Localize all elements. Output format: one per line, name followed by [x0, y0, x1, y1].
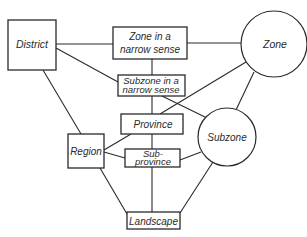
- district-label: District: [16, 38, 49, 50]
- edge-province-region: [104, 134, 131, 150]
- edge-region-landscape: [100, 168, 127, 214]
- edge-district-subzone-narrow: [56, 48, 118, 82]
- edge-district-region: [43, 70, 81, 134]
- hierarchy-diagram: District Zone in a narrow sense Zone Sub…: [0, 0, 307, 237]
- edge-subzone-landscape: [180, 162, 213, 213]
- zone-narrow-label-line2: narrow sense: [120, 44, 180, 55]
- edge-subprovince-subzone: [180, 152, 201, 160]
- province-label: Province: [134, 119, 173, 130]
- node-subprovince: Sub- province: [125, 148, 180, 167]
- subzone-label: Subzone: [207, 132, 247, 143]
- node-zone-narrow-sense: Zone in a narrow sense: [113, 27, 187, 59]
- zone-narrow-label-line1: Zone in a: [128, 31, 171, 42]
- region-label: Region: [70, 146, 102, 157]
- edge-region-subprovince: [104, 152, 125, 158]
- node-district: District: [8, 20, 56, 70]
- zone-label: Zone: [262, 38, 287, 50]
- node-landscape: Landscape: [127, 212, 180, 229]
- node-subzone: Subzone: [198, 108, 256, 166]
- edge-zone-subzone: [236, 72, 254, 110]
- node-zone: Zone: [241, 11, 307, 77]
- landscape-label: Landscape: [129, 216, 178, 227]
- node-subzone-narrow-sense: Subzone in a narrow sense: [118, 75, 185, 96]
- subprovince-label-line2: province: [134, 156, 171, 167]
- subzone-narrow-label-line2: narrow sense: [122, 84, 179, 95]
- node-province: Province: [121, 114, 183, 134]
- node-region: Region: [68, 134, 104, 168]
